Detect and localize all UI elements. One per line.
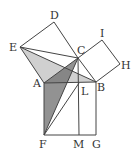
label-h: H bbox=[121, 59, 131, 72]
label-a: A bbox=[32, 77, 42, 90]
label-b: B bbox=[97, 81, 105, 94]
label-g: G bbox=[92, 138, 101, 151]
label-l: L bbox=[81, 85, 89, 98]
segment-cm bbox=[78, 58, 79, 135]
label-c: C bbox=[77, 44, 85, 57]
label-i: I bbox=[100, 27, 104, 40]
label-e: E bbox=[9, 41, 17, 54]
label-d: D bbox=[50, 9, 59, 22]
label-f: F bbox=[39, 138, 47, 151]
pythagorean-proof-diagram: D E C I H A L B F M G bbox=[0, 0, 140, 156]
label-m: M bbox=[73, 138, 84, 151]
